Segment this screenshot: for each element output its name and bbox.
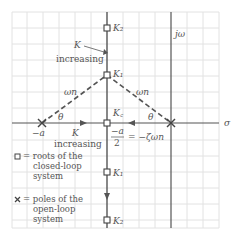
square-icon <box>104 169 110 175</box>
k-increasing-pointer <box>84 46 104 52</box>
label-neg-a-over-2-den: 2 <box>114 138 120 148</box>
arrow-down-icon <box>104 193 110 200</box>
real-axis-label: σ <box>224 118 231 128</box>
legend-square-icon <box>15 154 20 159</box>
label-k2-top: K₂ <box>112 23 124 33</box>
label-theta-left: θ <box>58 112 64 122</box>
arrow-right-icon <box>80 120 87 126</box>
label-k-increasing-top-k: K <box>73 40 82 50</box>
label-omega-n-right: ωn <box>136 87 149 97</box>
label-k-increasing-left-k: K <box>71 128 80 138</box>
legend-line: system <box>23 214 83 224</box>
imag-axis-label: jω <box>173 29 186 39</box>
label-k-increasing-left-text: increasing <box>54 139 102 149</box>
label-k1-top: K₁ <box>112 69 123 79</box>
legend-line: = roots of the <box>23 151 83 161</box>
label-k1-bottom: K₁ <box>112 168 123 178</box>
label-omega-n-left: ωn <box>64 87 77 97</box>
label-theta-right: θ <box>148 112 154 122</box>
legend-line: open-loop <box>23 204 83 214</box>
legend-closed-loop: = roots of the closed-loop system <box>23 151 83 181</box>
label-kc: K꜀ <box>112 108 124 118</box>
legend-line: closed-loop <box>23 161 83 171</box>
legend-cross-icon <box>15 197 20 202</box>
label-neg-a-over-2-num: −a <box>111 126 124 136</box>
legend-line: = poles of the <box>23 194 83 204</box>
arrow-left-icon <box>128 120 135 126</box>
label-neg-a: −a <box>32 128 45 138</box>
square-icon <box>104 120 110 126</box>
label-k-increasing-top-text: increasing <box>56 54 104 64</box>
legend-open-loop: = poles of the open-loop system <box>23 194 83 224</box>
legend-line: system <box>23 171 83 181</box>
label-neg-zeta-omega: = −ζωn <box>128 132 164 142</box>
square-icon <box>104 72 110 78</box>
square-icon <box>104 217 110 223</box>
square-icon <box>104 25 110 31</box>
label-k2-bottom: K₂ <box>112 216 124 226</box>
